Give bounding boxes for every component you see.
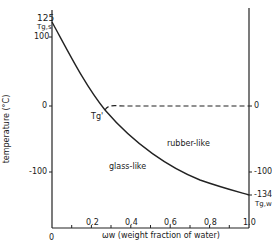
x-tick-0.8: 0.8 — [204, 219, 217, 227]
x-tick-0.4: 0.4 — [125, 219, 138, 227]
right-tick-0: 0 — [254, 102, 259, 110]
y-tick-0: 0 — [42, 102, 47, 110]
glass-like-label: glass-like — [109, 163, 146, 171]
y-tick-100: 100 — [34, 33, 49, 41]
x-tick-0: 0 — [49, 234, 54, 242]
y-axis-label: temperature (°C) — [3, 95, 11, 164]
x-tick-0.2: 0.2 — [86, 219, 99, 227]
x-tick-0.6: 0.6 — [164, 219, 177, 227]
rubber-like-label: rubber-like — [167, 140, 210, 148]
tg-prime-line — [105, 106, 249, 110]
right-tick-minus100: -100 — [254, 168, 272, 176]
ticks — [49, 37, 252, 228]
x-axis-label: ωw (weight fraction of water) — [102, 232, 220, 240]
tg-curve — [52, 22, 249, 195]
y-tick-125: 125 — [37, 14, 54, 23]
tgw-label: Tg,w — [255, 201, 272, 208]
tg-prime-label: Tg' — [91, 113, 103, 121]
right-tick-minus134: -134 — [254, 191, 272, 199]
x-tick-1.0: 1.0 — [243, 219, 256, 227]
y-tick-minus100: -100 — [29, 168, 47, 176]
tgs-label: Tg,s — [37, 24, 52, 31]
